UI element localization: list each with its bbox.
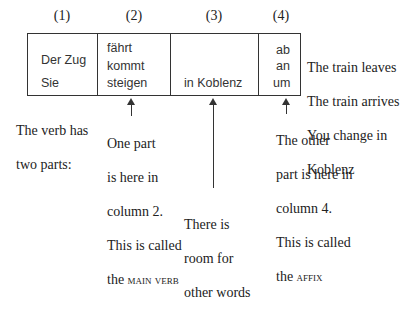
note-line: part is here in [276, 166, 353, 183]
col1-subject-1: Der Zug [41, 52, 86, 68]
col4-affix-3: um [273, 75, 290, 91]
note-line: column 4. [276, 200, 353, 217]
column-number-2: (2) [126, 8, 142, 24]
note-line: other words [184, 284, 251, 301]
column-divider [170, 33, 171, 96]
term-affix: affix [297, 269, 323, 284]
main-verb-note: One part is here in column 2. This is ca… [107, 118, 182, 305]
note-line: One part [107, 135, 182, 152]
note-line: There is [184, 216, 251, 233]
column-divider [97, 33, 98, 96]
col1-subject-2: Sie [41, 75, 59, 91]
column-number-3: (3) [206, 8, 222, 24]
column-divider [258, 33, 259, 96]
translation-line: The train arrives [307, 93, 400, 110]
note-line: The other [276, 132, 353, 149]
note-line: This is called [107, 237, 182, 254]
note-line: The verb has [16, 122, 88, 139]
verb-parts-note: The verb has two parts: [16, 105, 88, 190]
col3-phrase: in Koblenz [184, 75, 242, 91]
column-number-4: (4) [273, 8, 289, 24]
note-line: is here in [107, 169, 182, 186]
note-line: the main verb [107, 271, 182, 288]
note-line: the affix [276, 268, 353, 285]
note-line: This is called [276, 234, 353, 251]
col2-verb-2: kommt [107, 58, 145, 74]
arrow-shaft [131, 102, 132, 116]
column-number-1: (1) [54, 8, 70, 24]
col2-verb-1: fährt [107, 40, 132, 56]
room-note: There is room for other words to come be… [184, 199, 251, 312]
translation-line: The train leaves [307, 59, 400, 76]
arrow-shaft [213, 102, 214, 188]
note-line: two parts: [16, 156, 88, 173]
note-line: room for [184, 250, 251, 267]
note-line: column 2. [107, 203, 182, 220]
affix-note: The other part is here in column 4. This… [276, 115, 353, 302]
term-main-verb: main verb [128, 272, 179, 287]
col4-affix-2: an [276, 58, 290, 74]
col2-verb-3: steigen [107, 75, 147, 91]
arrow-shaft [286, 102, 287, 114]
col4-affix-1: ab [276, 42, 290, 58]
